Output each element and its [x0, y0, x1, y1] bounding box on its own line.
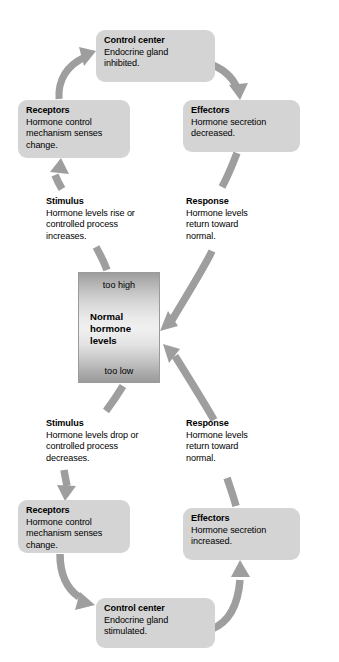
- label-line-1: Hormone levels rise or: [46, 208, 181, 220]
- label-title: Response: [186, 196, 296, 208]
- node-title: Effectors: [191, 513, 293, 525]
- label-line-3: normal.: [186, 231, 296, 243]
- label-line-1: Hormone levels: [186, 208, 296, 220]
- label-line-2: return toward: [186, 219, 296, 231]
- too-low-label: too low: [79, 366, 159, 376]
- node-lower-receptors: Receptors Hormone control mechanism sens…: [18, 500, 130, 553]
- node-upper-control-center: Control center Endocrine gland inhibited…: [96, 30, 215, 82]
- label-lower-response: Response Hormone levels return toward no…: [186, 418, 296, 465]
- label-title: Response: [186, 418, 296, 430]
- arrow-up-receptors-to-control-center: [59, 47, 96, 99]
- too-high-label: too high: [79, 280, 159, 290]
- node-line-2: inhibited.: [104, 58, 208, 70]
- normal-line-1: Normal: [90, 311, 131, 323]
- arrow-low-receptors-to-control-center: [60, 554, 95, 610]
- node-line-2: mechanism senses: [26, 528, 123, 540]
- node-lower-control-center: Control center Endocrine gland stimulate…: [96, 598, 215, 648]
- label-upper-response: Response Hormone levels return toward no…: [186, 196, 296, 243]
- label-title: Stimulus: [46, 418, 186, 430]
- node-line-1: Hormone control: [26, 117, 123, 129]
- node-upper-receptors: Receptors Hormone control mechanism sens…: [18, 100, 130, 158]
- node-title: Receptors: [26, 505, 123, 517]
- label-upper-stimulus: Stimulus Hormone levels rise or controll…: [46, 196, 181, 243]
- label-lower-stimulus: Stimulus Hormone levels drop or controll…: [46, 418, 186, 465]
- normal-hormone-levels-box: too high Normal hormone levels too low: [78, 272, 160, 383]
- node-line-1: Hormone control: [26, 517, 123, 529]
- label-line-3: normal.: [186, 453, 296, 465]
- node-title: Control center: [104, 603, 208, 615]
- label-line-2: return toward: [186, 441, 296, 453]
- node-line-2: stimulated.: [104, 626, 208, 638]
- label-line-3: decreases.: [46, 453, 186, 465]
- node-line-3: change.: [26, 540, 123, 552]
- node-line-2: increased.: [191, 536, 293, 548]
- label-line-1: Hormone levels: [186, 430, 296, 442]
- label-line-3: increases.: [46, 231, 181, 243]
- node-title: Effectors: [191, 105, 293, 117]
- node-line-3: change.: [26, 140, 123, 152]
- node-line-2: decreased.: [191, 128, 293, 140]
- node-title: Receptors: [26, 105, 123, 117]
- normal-line-2: hormone: [90, 323, 131, 335]
- feedback-cycle-diagram: too high Normal hormone levels too low C…: [0, 0, 339, 662]
- node-line-1: Endocrine gland: [104, 47, 208, 59]
- label-line-2: controlled process: [46, 441, 186, 453]
- node-line-2: mechanism senses: [26, 128, 123, 140]
- label-line-1: Hormone levels drop or: [46, 430, 186, 442]
- arrow-low-control-center-to-effectors: [212, 560, 250, 629]
- node-line-1: Endocrine gland: [104, 615, 208, 627]
- node-title: Control center: [104, 35, 208, 47]
- node-upper-effectors: Effectors Hormone secretion decreased.: [183, 100, 300, 152]
- node-lower-effectors: Effectors Hormone secretion increased.: [183, 508, 300, 560]
- normal-hormone-levels-label: Normal hormone levels: [90, 311, 131, 346]
- label-title: Stimulus: [46, 196, 181, 208]
- normal-line-3: levels: [90, 335, 131, 347]
- node-line-1: Hormone secretion: [191, 117, 293, 129]
- label-line-2: controlled process: [46, 219, 181, 231]
- node-line-1: Hormone secretion: [191, 525, 293, 537]
